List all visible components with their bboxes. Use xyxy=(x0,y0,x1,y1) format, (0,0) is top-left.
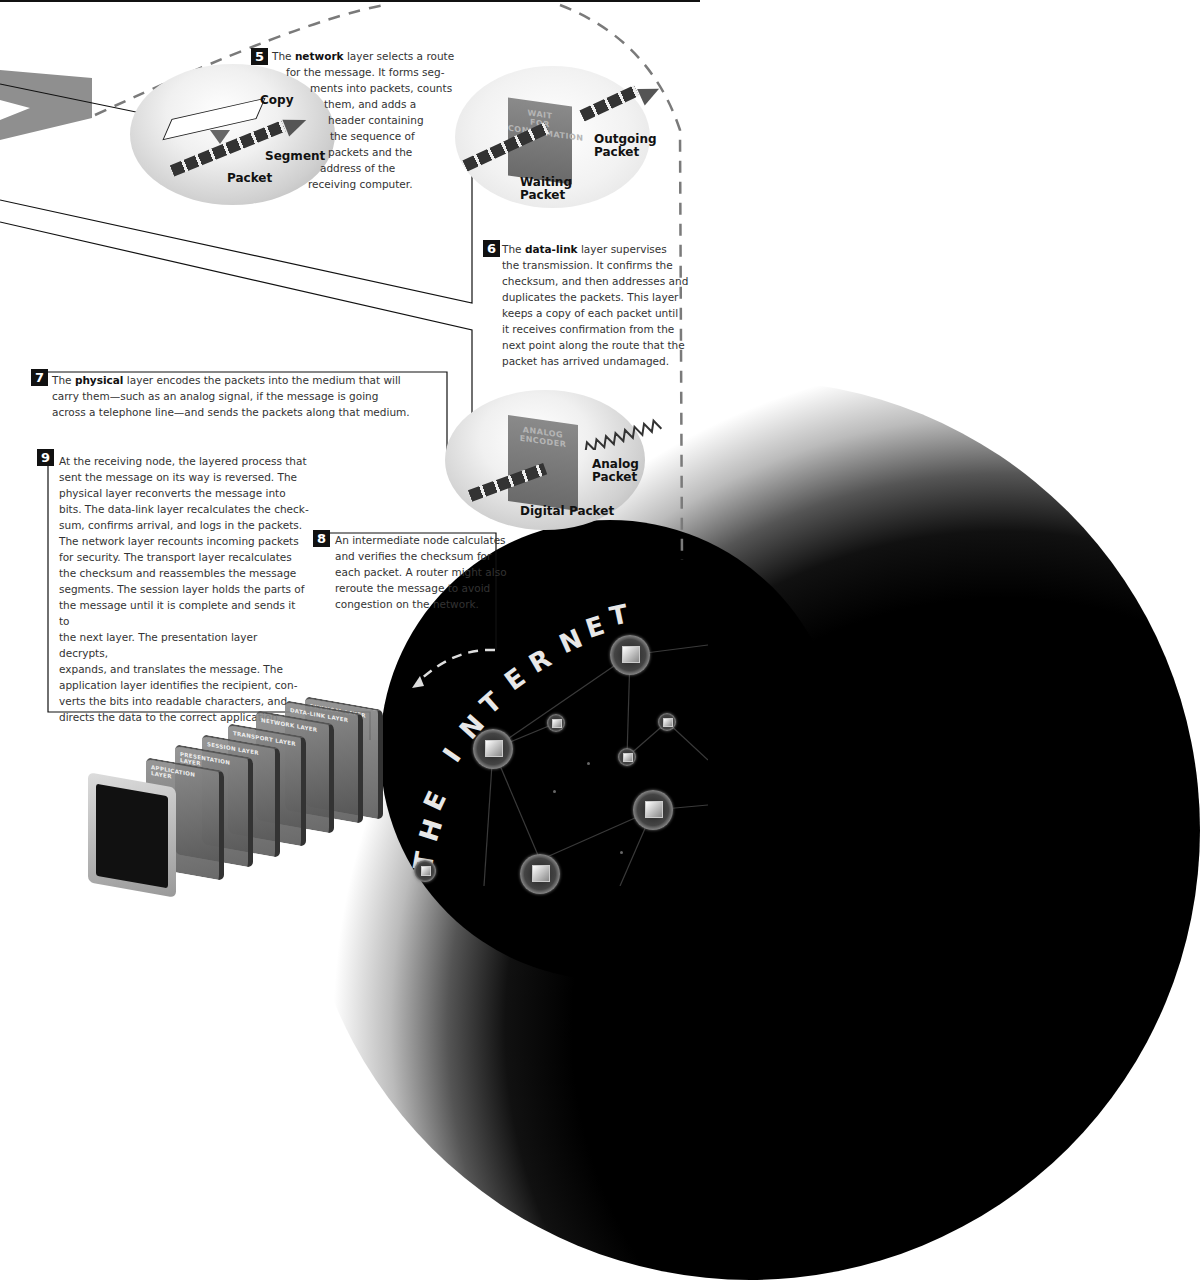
network-dot xyxy=(620,851,623,854)
step-5-line-4: header containing xyxy=(272,112,472,128)
computer-icon xyxy=(421,866,432,876)
step-9-line-8: segments. The session layer holds the pa… xyxy=(59,581,309,597)
computer-icon xyxy=(552,719,561,727)
step-6-text: The data-link layer supervises the trans… xyxy=(502,241,702,369)
step-9-line-11: expands, and translates the message. The xyxy=(59,661,309,677)
step-5-line-7: address of the xyxy=(272,160,472,176)
step-5-line-8: receiving computer. xyxy=(272,176,472,192)
step-badge-8: 8 xyxy=(313,530,330,547)
label-outgoing-packet: Outgoing Packet xyxy=(594,133,664,159)
step-8-line-2: each packet. A router might also xyxy=(335,564,510,580)
step-8-line-0: An intermediate node calculates xyxy=(335,532,510,548)
step-7-line-1: carry them—such as an analog signal, if … xyxy=(52,388,452,404)
step-5-line-1: for the message. It forms seg- xyxy=(272,64,472,80)
network-node-small xyxy=(547,714,565,732)
step-9-line-4: sum, confirms arrival, and logs in the p… xyxy=(59,517,309,533)
network-node-computer xyxy=(473,729,513,769)
network-node-computer xyxy=(633,790,673,830)
step-6-line-6: next point along the route that the xyxy=(502,337,702,353)
step-9-line-3: bits. The data-link layer recalculates t… xyxy=(59,501,309,517)
step-5-line-3: them, and adds a xyxy=(272,96,472,112)
step-9-line-1: sent the message on its way is reversed.… xyxy=(59,469,309,485)
step-badge-7: 7 xyxy=(31,369,48,386)
step-6-line-0: layer supervises xyxy=(581,243,667,255)
step-8-line-3: reroute the message to avoid xyxy=(335,580,510,596)
step-5-lead: The xyxy=(272,50,295,62)
step-5-line-5: the sequence of xyxy=(272,128,472,144)
network-node-computer xyxy=(520,854,560,894)
step-6-line-5: it receives confirmation from the xyxy=(502,321,702,337)
keyword-physical: physical xyxy=(75,374,124,386)
network-node-computer xyxy=(610,635,650,675)
step-badge-9: 9 xyxy=(37,449,54,466)
step-9-line-13: verts the bits into readable characters,… xyxy=(59,693,309,709)
step-7-line-0: layer encodes the packets into the mediu… xyxy=(127,374,401,386)
label-waiting-packet: Waiting Packet xyxy=(520,176,580,202)
computer-icon xyxy=(645,801,663,817)
monitor-screen xyxy=(96,784,168,889)
network-node-small xyxy=(658,713,676,731)
computer-icon xyxy=(663,718,672,726)
step-5-line-6: packets and the xyxy=(272,144,472,160)
computer-icon xyxy=(623,753,632,761)
step-7-line-2: across a telephone line—and sends the pa… xyxy=(52,404,452,420)
step-5-line-0: layer selects a route xyxy=(347,50,454,62)
step-9-line-9: the message until it is complete and sen… xyxy=(59,597,309,629)
step-9-line-0: At the receiving node, the layered proce… xyxy=(59,453,309,469)
step-badge-5: 5 xyxy=(251,48,268,65)
network-dot xyxy=(587,762,590,765)
step-6-line-3: duplicates the packets. This layer xyxy=(502,289,702,305)
incoming-arrow xyxy=(0,70,92,140)
network-dot xyxy=(553,790,556,793)
step-badge-6: 6 xyxy=(483,240,500,257)
label-analog-packet: Analog Packet xyxy=(592,458,652,484)
step-9-text: At the receiving node, the layered proce… xyxy=(59,453,309,725)
step-5-line-2: ments into packets, counts xyxy=(272,80,472,96)
computer-icon xyxy=(485,740,503,756)
step-6-lead: The xyxy=(502,243,525,255)
step-9-line-2: physical layer reconverts the message in… xyxy=(59,485,309,501)
network-node-small xyxy=(414,860,436,882)
step-9-line-12: application layer identifies the recipie… xyxy=(59,677,309,693)
computer-icon xyxy=(532,865,550,881)
step-8-line-1: and verifies the checksum for xyxy=(335,548,510,564)
step-6-line-4: keeps a copy of each packet until xyxy=(502,305,702,321)
network-node-small xyxy=(618,748,636,766)
computer-icon xyxy=(622,646,640,662)
step-9-line-5: The network layer recounts incoming pack… xyxy=(59,533,309,549)
step-6-line-1: the transmission. It confirms the xyxy=(502,257,702,273)
step-6-line-2: checksum, and then addresses and xyxy=(502,273,702,289)
keyword-network: network xyxy=(295,50,344,62)
step-9-line-7: the checksum and reassembles the message xyxy=(59,565,309,581)
step-8-text: An intermediate node calculates and veri… xyxy=(335,532,510,612)
step-9-line-6: for security. The transport layer recalc… xyxy=(59,549,309,565)
label-digital-packet: Digital Packet xyxy=(520,505,614,518)
analog-wave xyxy=(575,400,685,450)
step-9-line-10: the next layer. The presentation layer d… xyxy=(59,629,309,661)
step-8-line-4: congestion on the network. xyxy=(335,596,510,612)
label-packet: Packet xyxy=(227,172,272,185)
keyword-data-link: data-link xyxy=(525,243,578,255)
step-6-line-7: packet has arrived undamaged. xyxy=(502,353,702,369)
step-5-text: The network layer selects a route for th… xyxy=(272,48,472,192)
step-7-lead: The xyxy=(52,374,75,386)
step-7-text: The physical layer encodes the packets i… xyxy=(52,372,452,420)
